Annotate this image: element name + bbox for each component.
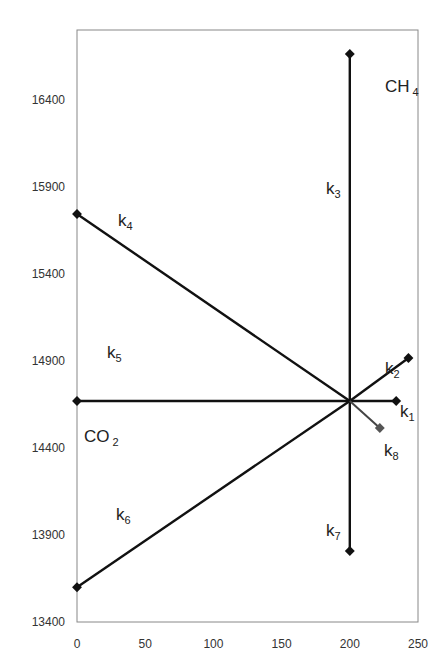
- y-tick-label: 14900: [32, 354, 66, 368]
- label-k6: k6: [116, 505, 131, 526]
- x-tick-label: 50: [139, 637, 153, 651]
- y-tick-label: 15400: [32, 267, 66, 281]
- x-tick-label: 250: [408, 637, 428, 651]
- x-tick-label: 200: [340, 637, 360, 651]
- y-tick-label: 13400: [32, 615, 66, 629]
- chart: 0501001502002501340013900144001490015400…: [0, 0, 444, 665]
- y-tick-label: 13900: [32, 528, 66, 542]
- plot-area: [77, 30, 418, 622]
- label-k8: k8: [384, 441, 399, 462]
- line-k6: [77, 401, 350, 587]
- y-tick-label: 14400: [32, 441, 66, 455]
- label-CH4: CH4: [385, 77, 419, 98]
- y-tick-label: 15900: [32, 180, 66, 194]
- marker-k7: [345, 546, 355, 556]
- label-k2: k2: [385, 359, 400, 380]
- label-k1: k1: [400, 402, 415, 423]
- marker-k3: [345, 49, 355, 59]
- label-k4: k4: [118, 211, 133, 232]
- x-tick-label: 150: [272, 637, 292, 651]
- line-k8: [350, 401, 380, 428]
- label-k3: k3: [326, 179, 341, 200]
- label-k7: k7: [326, 521, 341, 542]
- marker-k5: [72, 396, 82, 406]
- label-k5: k5: [107, 343, 122, 364]
- line-k4: [77, 214, 350, 401]
- x-tick-label: 0: [74, 637, 81, 651]
- line-k2: [350, 358, 409, 401]
- y-tick-label: 16400: [32, 93, 66, 107]
- x-tick-label: 100: [203, 637, 223, 651]
- label-CO2: CO2: [84, 427, 119, 448]
